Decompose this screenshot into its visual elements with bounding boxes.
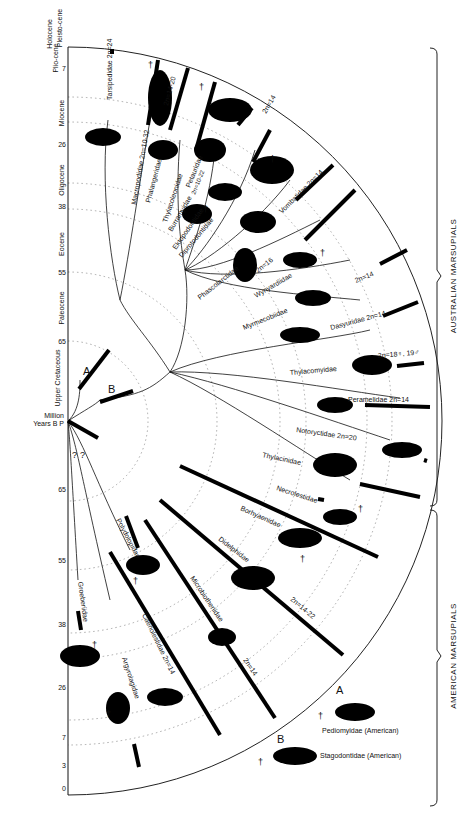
svg-text:Oligocene: Oligocene <box>58 164 66 196</box>
svg-text:Miocene: Miocene <box>58 100 65 127</box>
family-tarsipedidae: Tarsipedidae 2n=24 <box>106 39 114 100</box>
family-peramelidae: Peramelidae 2n=14 <box>348 396 409 403</box>
polydolops-silhouette <box>126 555 160 575</box>
family-dasyuridae: Dasyuridae 2n=14 <box>329 309 386 332</box>
thylacine-silhouette <box>313 453 357 477</box>
svg-text:7: 7 <box>62 65 66 72</box>
svg-text:?: ? <box>80 450 85 460</box>
karyotype-burramyidae: 2n=14 <box>261 94 277 115</box>
phylogeny-diagram: 7 26 38 55 65 65 55 38 26 7 3 0 Million … <box>0 0 476 821</box>
svg-text:Years B P: Years B P <box>33 420 64 427</box>
extinct-markers: † † † † † † † † † † † † <box>92 60 363 767</box>
caenolestes-silhouette <box>147 688 183 706</box>
svg-text:Upper Cretaceous: Upper Cretaceous <box>54 349 62 406</box>
family-phalangeridae: Phalangeridae <box>144 158 163 204</box>
svg-text:65: 65 <box>58 338 66 345</box>
pediomys-silhouette <box>335 703 375 721</box>
family-thylacinidae: Thylacinidae <box>262 451 302 467</box>
phalanger-silhouette <box>148 140 178 160</box>
svg-text:Pleisto-cene: Pleisto-cene <box>56 9 63 48</box>
svg-text:0: 0 <box>62 785 66 792</box>
numbat-silhouette <box>295 290 331 306</box>
svg-text:†: † <box>199 82 204 92</box>
karyotype-phascolarctidae: 2n=16 <box>254 256 274 274</box>
axis-ticks-lower: 65 55 38 26 7 3 0 <box>58 486 66 792</box>
svg-text:26: 26 <box>58 684 66 691</box>
svg-text:7: 7 <box>62 734 66 741</box>
svg-text:†: † <box>270 154 275 164</box>
karyotype-didelphidae: 2n=14-22 <box>289 595 316 620</box>
svg-text:†: † <box>92 640 97 650</box>
svg-text:Stagodontidae (American): Stagodontidae (American) <box>320 752 401 760</box>
svg-text:55: 55 <box>58 557 66 564</box>
karyotype-myrmecobiidae: 2n=14 <box>354 270 375 284</box>
svg-text:†: † <box>300 554 305 564</box>
burramys-silhouette <box>208 183 242 201</box>
svg-text:55: 55 <box>58 269 66 276</box>
svg-text:†: † <box>106 709 111 719</box>
svg-text:†: † <box>258 757 263 767</box>
family-wynyardiidae: Wynyardiidae <box>253 272 294 300</box>
svg-text:26: 26 <box>58 141 66 148</box>
svg-text:†: † <box>148 60 153 70</box>
necrolestes-silhouette <box>323 509 357 525</box>
thylacoleo-silhouette <box>208 98 252 122</box>
svg-text:B: B <box>277 733 284 745</box>
australian-marsupials-label: AUSTRALIAN MARSUPIALS <box>449 219 458 334</box>
dasyurid-silhouette <box>280 327 320 343</box>
svg-text:†: † <box>358 504 363 514</box>
borhyaena-silhouette <box>278 528 322 548</box>
svg-text:Million: Million <box>44 412 64 419</box>
svg-text:A: A <box>83 365 91 377</box>
argyrolagus-silhouette <box>106 692 130 724</box>
svg-text:65: 65 <box>58 486 66 493</box>
koala-silhouette <box>233 248 257 282</box>
marsupial-mole-silhouette <box>382 442 422 458</box>
wombat-silhouette <box>240 211 276 233</box>
ancestor-labels: A B ? ? <box>72 365 115 460</box>
svg-text:Plio-cene: Plio-cene <box>52 43 59 72</box>
svg-text:†: † <box>133 576 138 586</box>
opossum-silhouette <box>231 566 275 590</box>
american-marsupials-label: AMERICAN MARSUPIALS <box>449 603 458 709</box>
family-thylacomyidae: Thylacomyidae <box>289 365 337 377</box>
axis-title: Million Years B P <box>33 412 64 427</box>
svg-text:38: 38 <box>58 203 66 210</box>
family-argyrolagidae: Argyrolagidae <box>120 656 141 700</box>
group-labels: AUSTRALIAN MARSUPIALS AMERICAN MARSUPIAL… <box>449 219 458 709</box>
group-brackets <box>430 48 441 806</box>
animal-silhouettes <box>60 70 422 765</box>
tarsipedidae-silhouette <box>85 128 121 146</box>
family-caenolestidae: Caenolestidae 2n=14 <box>141 612 176 675</box>
svg-text:?: ? <box>72 450 77 460</box>
family-phascolarctidae: Phascolarctidae <box>196 265 240 301</box>
svg-text:38: 38 <box>58 621 66 628</box>
monito-silhouette <box>208 628 236 646</box>
svg-text:3: 3 <box>62 762 66 769</box>
svg-text:A: A <box>336 684 344 696</box>
stagodont-silhouette <box>273 747 317 765</box>
svg-text:Pediomyidae (American): Pediomyidae (American) <box>322 727 399 735</box>
svg-text:†: † <box>203 204 208 214</box>
family-necrolestidae: Necrolestidae <box>276 484 319 504</box>
svg-text:†: † <box>318 711 323 721</box>
svg-text:B: B <box>108 383 115 395</box>
svg-text:Paleocene: Paleocene <box>58 291 65 324</box>
svg-text:Eocene: Eocene <box>58 232 65 256</box>
svg-text:†: † <box>320 248 325 258</box>
wynyardia-silhouette <box>283 252 317 268</box>
